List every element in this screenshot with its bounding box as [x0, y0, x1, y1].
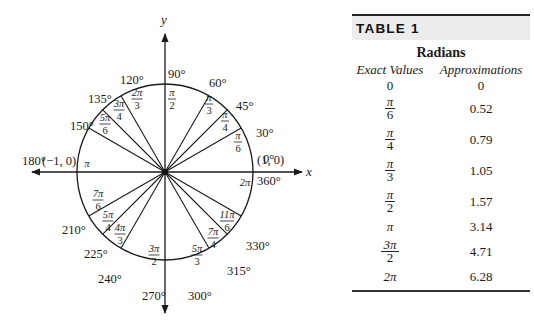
radian-denominator: 4	[210, 239, 216, 250]
degree-label-300: 300°	[188, 289, 212, 303]
radian-denominator: 3	[117, 235, 122, 246]
table-row: π31.05	[352, 155, 530, 186]
fraction-denominator: 2	[387, 202, 394, 214]
radian-numerator: 2π	[132, 87, 143, 98]
table-row: π60.52	[352, 93, 530, 124]
table-row: 2π6.28	[352, 267, 530, 286]
degree-label-270: 270°	[142, 289, 166, 303]
radian-denominator: 3	[194, 256, 199, 267]
radian-numerator: 4π	[115, 222, 126, 233]
degree-label-330: 330°	[246, 239, 270, 253]
radian-label-225: 5π4	[103, 209, 114, 233]
radian-label-360: 2π	[240, 177, 251, 188]
exact-value: 0	[387, 78, 394, 94]
unit-circle-diagram: y x (1, 0) (−1, 0) 0°30°45°60°90°120°135…	[0, 0, 340, 323]
degree-label-60: 60°	[209, 76, 227, 90]
radian-denominator: 3	[134, 100, 139, 111]
radian-denominator: 3	[206, 105, 211, 116]
radian-label-120: 2π3	[132, 87, 143, 111]
exact-value-cell: π4	[352, 127, 428, 152]
radian-label-135: 3π4	[113, 98, 125, 122]
table-row: π21.57	[352, 186, 530, 217]
exact-value-cell: π6	[352, 96, 428, 121]
degree-label-120: 120°	[120, 73, 144, 87]
degree-label-240: 240°	[98, 272, 122, 286]
y-axis-label: y	[159, 12, 167, 27]
degree-label-315: 315°	[227, 264, 251, 278]
approximation-cell: 1.57	[428, 194, 530, 210]
table-bottom-rule	[352, 290, 530, 292]
table-row: π40.79	[352, 124, 530, 155]
radian-label-90: π2	[168, 87, 176, 111]
radian-denominator: 4	[116, 111, 122, 122]
radian-denominator: 4	[222, 122, 228, 133]
radian-numerator: 5π	[100, 112, 111, 123]
column-header-exact: Exact Values	[352, 62, 428, 78]
radians-table: TABLE 1 Radians Exact Values Approximati…	[352, 14, 530, 292]
degree-label-150: 150°	[70, 119, 94, 133]
radian-label-315: 7π4	[208, 226, 219, 250]
exact-value-cell: π2	[352, 189, 428, 214]
exact-value: π	[387, 219, 394, 235]
point-label-left: (−1, 0)	[42, 154, 76, 168]
exact-value-cell: 2π	[352, 269, 428, 285]
radian-numerator: π	[235, 130, 241, 141]
approximation-cell: 0.79	[428, 132, 530, 148]
radian-numerator: π	[222, 109, 228, 120]
radian-numerator: π	[206, 92, 212, 103]
x-axis-label: x	[305, 164, 312, 179]
fraction-denominator: 6	[387, 109, 394, 121]
radian-numerator: 5π	[192, 243, 203, 254]
degree-label-45: 45°	[236, 99, 254, 113]
table-row: 3π24.71	[352, 236, 530, 267]
approximation-cell: 0	[428, 78, 530, 94]
exact-value-cell: 0	[352, 78, 428, 94]
radian-label-270: 3π2	[148, 243, 160, 267]
fraction-denominator: 4	[387, 140, 394, 152]
table-title: TABLE 1	[352, 16, 530, 40]
approximation-cell: 1.05	[428, 163, 530, 179]
approximation-cell: 0.52	[428, 101, 530, 117]
radian-denominator: 6	[95, 201, 100, 212]
table-body: 00π60.52π40.79π31.05π21.57π3.143π24.712π…	[352, 78, 530, 286]
radian-label-150: 5π6	[100, 112, 111, 136]
radian-numerator: 11π	[220, 209, 236, 220]
degree-label-135: 135°	[88, 92, 112, 106]
table-row: π3.14	[352, 217, 530, 236]
radian-label-30: π6	[234, 130, 242, 154]
exact-value-cell: π3	[352, 158, 428, 183]
radian-numerator: 5π	[103, 209, 114, 220]
radian-numerator: 7π	[93, 188, 104, 199]
approximation-cell: 4.71	[428, 244, 530, 260]
radian-denominator: 6	[224, 222, 229, 233]
exact-value-cell: 3π2	[352, 239, 428, 264]
radian-denominator: 6	[235, 143, 240, 154]
degree-label-90: 90°	[168, 67, 186, 81]
approximation-cell: 6.28	[428, 269, 530, 285]
column-header-approx: Approximations	[428, 62, 530, 78]
degree-label-180: 180°	[22, 154, 46, 168]
radian-numerator: 3π	[148, 243, 160, 254]
degree-label-210: 210°	[62, 223, 86, 237]
radian-label-180: π	[84, 158, 90, 169]
radian-numerator: 7π	[208, 226, 219, 237]
degree-label-30: 30°	[256, 126, 274, 140]
origin-dot	[162, 169, 168, 175]
exact-value: 2π	[383, 269, 396, 285]
radian-denominator: 2	[151, 256, 156, 267]
radian-denominator: 4	[105, 222, 111, 233]
fraction-denominator: 3	[387, 171, 394, 183]
radian-label-45: π4	[221, 109, 229, 133]
exact-value-cell: π	[352, 219, 428, 235]
table-group-heading: Radians	[352, 45, 530, 61]
degree-label-225: 225°	[84, 247, 108, 261]
table-column-headers: Exact Values Approximations	[352, 62, 530, 78]
radian-numerator: π	[169, 87, 175, 98]
radian-numerator: 3π	[113, 98, 125, 109]
radian-denominator: 6	[102, 125, 107, 136]
degree-label-0: 0°	[263, 152, 274, 166]
radian-numerator: 2π	[240, 177, 251, 188]
fraction-denominator: 2	[387, 252, 394, 264]
table-row: 00	[352, 78, 530, 93]
degree-label-360: 360°	[257, 174, 281, 188]
